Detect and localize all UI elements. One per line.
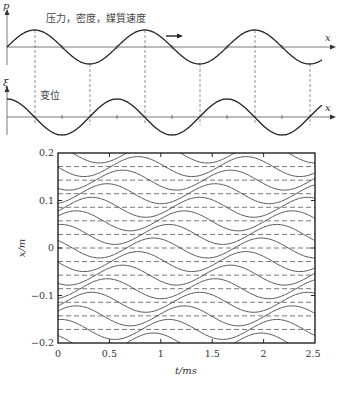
x-tick-2.5: 2.5 — [305, 348, 320, 359]
acoustic-wave-diagram: p x 压力，密度，媒質速度 ξ x 变位 — [0, 0, 337, 395]
displacement-wave-panel: ξ x 变位 — [3, 77, 336, 135]
displacement-x-label: x — [325, 102, 331, 113]
phase-guide-lines — [35, 30, 310, 125]
y-tick-0.1: 0.1 — [39, 195, 54, 206]
displacement-x-axis-arrow-icon — [330, 115, 336, 120]
y-tick-neg0.1: −0.1 — [31, 290, 54, 301]
x-tick-labels: 0 0.5 1 1.5 2 2.5 — [55, 348, 321, 359]
x-tick-0.5: 0.5 — [102, 348, 117, 359]
y-tick-neg0.2: −0.2 — [31, 337, 54, 348]
pressure-wave-panel: p x 压力，密度，媒質速度 — [3, 0, 336, 65]
displacement-caption: 变位 — [40, 89, 60, 101]
x-tick-1.5: 1.5 — [205, 348, 220, 359]
pressure-x-label: x — [325, 32, 331, 43]
x-axis-label: t/ms — [175, 365, 197, 376]
y-axis-label: x/m — [16, 239, 27, 258]
propagation-right-arrow-icon — [177, 34, 183, 39]
pressure-caption: 压力，密度，媒質速度 — [46, 12, 146, 24]
y-tick-labels: 0.2 0.1 0 −0.1 −0.2 — [31, 147, 54, 348]
pressure-x-axis-arrow-icon — [330, 45, 336, 50]
y-tick-0: 0 — [48, 242, 54, 253]
x-tick-1: 1 — [158, 348, 164, 359]
trajectory-chart: 0.2 0.1 0 −0.1 −0.2 0 0.5 1 1.5 2 2.5 t/… — [16, 129, 321, 376]
pressure-y-label: p — [3, 0, 10, 11]
displacement-y-label: ξ — [3, 77, 9, 88]
x-tick-2: 2 — [261, 348, 267, 359]
x-tick-0: 0 — [55, 348, 61, 359]
y-tick-0.2: 0.2 — [39, 147, 54, 158]
